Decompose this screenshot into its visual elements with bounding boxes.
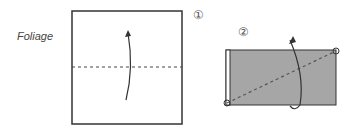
step-1-diagram: [72, 11, 182, 124]
arrow-head-icon: [125, 30, 131, 37]
origami-diagram: [0, 0, 351, 129]
step-2-diagram: [224, 36, 339, 109]
